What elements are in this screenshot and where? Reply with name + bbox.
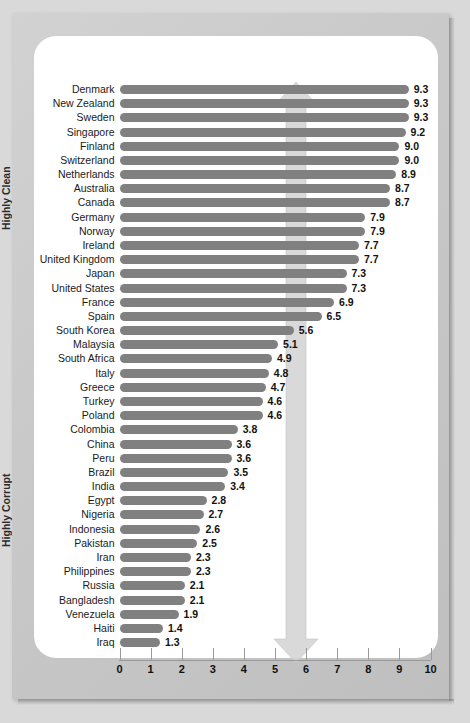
country-label: Australia	[74, 182, 115, 195]
x-axis-tick	[368, 648, 369, 660]
x-axis-tick-label: 4	[232, 663, 256, 675]
x-axis-tick-label: 8	[356, 663, 380, 675]
value-label: 2.1	[190, 579, 205, 592]
value-label: 7.7	[364, 253, 379, 266]
value-bar	[120, 496, 207, 505]
country-label: Japan	[86, 267, 115, 280]
table-row: Russia2.1	[0, 579, 470, 592]
table-row: France6.9	[0, 296, 470, 309]
country-label: Finland	[80, 140, 114, 153]
value-label: 7.9	[370, 225, 385, 238]
x-axis-tick-label: 1	[139, 663, 163, 675]
x-axis-tick-label: 0	[108, 663, 132, 675]
value-label: 9.0	[404, 140, 419, 153]
value-label: 8.7	[395, 182, 410, 195]
table-row: Egypt2.8	[0, 494, 470, 507]
x-axis-tick-label: 6	[294, 663, 318, 675]
value-bar	[120, 255, 360, 264]
table-row: Indonesia2.6	[0, 523, 470, 536]
value-bar	[120, 425, 238, 434]
x-axis-tick	[151, 648, 152, 660]
x-axis-tick	[275, 648, 276, 660]
value-bar	[120, 468, 229, 477]
value-bar	[120, 482, 226, 491]
country-label: United States	[51, 282, 114, 295]
x-axis-line	[119, 660, 431, 661]
x-axis-tick	[431, 648, 432, 660]
value-label: 9.3	[414, 111, 429, 124]
value-label: 1.4	[168, 622, 183, 635]
value-label: 2.3	[196, 565, 211, 578]
value-bar	[120, 454, 232, 463]
value-bar	[120, 567, 192, 576]
value-bar	[120, 156, 400, 165]
value-bar	[120, 553, 192, 562]
country-label: Netherlands	[58, 168, 115, 181]
value-label: 7.7	[364, 239, 379, 252]
table-row: Italy4.8	[0, 367, 470, 380]
value-label: 4.6	[268, 395, 283, 408]
country-label: South Africa	[58, 352, 115, 365]
value-bar	[120, 326, 294, 335]
x-axis-tick	[337, 648, 338, 660]
x-axis-tick	[120, 648, 121, 660]
table-row: United States7.3	[0, 282, 470, 295]
table-row: Norway7.9	[0, 225, 470, 238]
country-label: Nigeria	[81, 508, 114, 521]
value-label: 3.5	[233, 466, 248, 479]
table-row: Singapore9.2	[0, 126, 470, 139]
value-bar	[120, 383, 266, 392]
table-row: Finland9.0	[0, 140, 470, 153]
country-label: Brazil	[88, 466, 114, 479]
value-bar	[120, 397, 263, 406]
value-label: 9.3	[414, 83, 429, 96]
country-label: South Korea	[56, 324, 114, 337]
value-bar	[120, 128, 406, 137]
value-bar	[120, 184, 391, 193]
table-row: Peru3.6	[0, 452, 470, 465]
value-bar	[120, 581, 185, 590]
table-row: Pakistan2.5	[0, 537, 470, 550]
x-axis-tick	[182, 648, 183, 660]
x-axis-tick	[213, 648, 214, 660]
value-label: 7.3	[352, 267, 367, 280]
value-label: 3.6	[237, 438, 252, 451]
value-bar	[120, 610, 179, 619]
country-label: Denmark	[72, 83, 115, 96]
value-bar	[120, 440, 232, 449]
country-label: Indonesia	[69, 523, 115, 536]
table-row: Greece4.7	[0, 381, 470, 394]
table-row: Malaysia5.1	[0, 338, 470, 351]
value-bar	[120, 340, 279, 349]
country-label: Colombia	[70, 423, 114, 436]
value-bar	[120, 170, 397, 179]
bar-rows: Denmark9.3New Zealand9.3Sweden9.3Singapo…	[0, 0, 470, 723]
x-axis-tick-label: 9	[387, 663, 411, 675]
country-label: Canada	[78, 196, 115, 209]
value-label: 4.9	[277, 352, 292, 365]
country-label: India	[92, 480, 115, 493]
value-label: 9.0	[404, 154, 419, 167]
country-label: Venezuela	[65, 608, 114, 621]
country-label: Greece	[80, 381, 114, 394]
country-label: New Zealand	[53, 97, 115, 110]
value-label: 4.7	[271, 381, 286, 394]
table-row: Spain6.5	[0, 310, 470, 323]
table-row: Colombia3.8	[0, 423, 470, 436]
country-label: Iraq	[96, 636, 114, 649]
table-row: South Africa4.9	[0, 352, 470, 365]
value-label: 6.5	[327, 310, 342, 323]
country-label: Turkey	[83, 395, 115, 408]
value-bar	[120, 539, 198, 548]
value-bar	[120, 525, 201, 534]
value-bar	[120, 269, 347, 278]
x-axis-tick-label: 5	[263, 663, 287, 675]
table-row: Poland4.6	[0, 409, 470, 422]
table-row: Denmark9.3	[0, 83, 470, 96]
table-row: Turkey4.6	[0, 395, 470, 408]
country-label: Sweden	[77, 111, 115, 124]
value-bar	[120, 624, 164, 633]
table-row: Switzerland9.0	[0, 154, 470, 167]
table-row: Ireland7.7	[0, 239, 470, 252]
x-axis-tick	[399, 648, 400, 660]
